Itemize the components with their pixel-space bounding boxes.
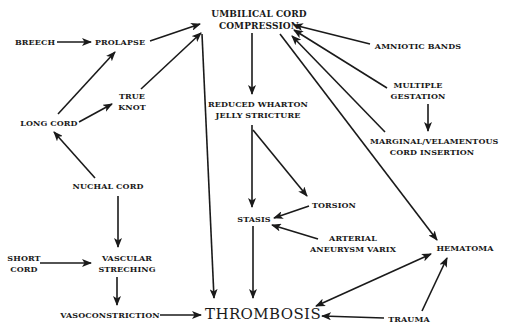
arrow-trauma-to-thrombosis [322, 316, 384, 318]
arrow-multiple-to-compression [294, 30, 387, 88]
node-hematoma-line: HEMATOMA [434, 243, 496, 254]
arrow-trauma-to-hematoma [422, 258, 447, 311]
node-longcord: LONG CORD [18, 118, 80, 129]
node-wharton-line: REDUCED WHARTON [208, 99, 308, 110]
node-marginal-line: CORD INSERTION [370, 147, 494, 158]
node-hematoma: HEMATOMA [434, 243, 496, 254]
node-vasocon-line: VASOCONSTRICTION [58, 310, 162, 321]
node-amniotic: AMNIOTIC BANDS [373, 41, 463, 52]
arrow-compression-to-thrombosis [202, 34, 214, 298]
node-multiple-line: GESTATION [386, 91, 450, 102]
node-vascular-line: VASCULAR [96, 253, 158, 264]
node-trueknot: TRUEKNOT [112, 91, 152, 113]
node-trueknot-line: TRUE [112, 91, 152, 102]
node-compression-line: COMPRESSION [209, 20, 309, 32]
node-nuchal: NUCHAL CORD [72, 181, 144, 192]
node-vascular: VASCULARSTRECHING [96, 253, 158, 275]
node-marginal-line: MARGINAL/VELAMENTOUS [370, 136, 494, 147]
arrow-nuchal-to-longcord [54, 132, 95, 178]
node-arterial-line: ANEURYSM VARIX [310, 244, 396, 255]
node-stasis: STASIS [236, 214, 272, 225]
node-amniotic-line: AMNIOTIC BANDS [373, 41, 463, 52]
node-longcord-line: LONG CORD [18, 118, 80, 129]
node-vasocon: VASOCONSTRICTION [58, 310, 162, 321]
arrow-longcord-to-trueknot [79, 104, 112, 122]
node-trauma: TRAUMA [386, 314, 432, 325]
node-trauma-line: TRAUMA [386, 314, 432, 325]
node-thrombosis-line: THROMBOSIS [205, 305, 317, 323]
node-torsion: TORSION [310, 200, 358, 211]
arrow-prolapse-to-compression [150, 24, 200, 41]
node-trueknot-line: KNOT [112, 102, 152, 113]
node-prolapse: PROLAPSE [94, 37, 146, 48]
node-arterial-line: ARTERIAL [310, 233, 396, 244]
node-compression-line: UMBILICAL CORD [209, 8, 309, 20]
node-shortcord: SHORTCORD [6, 253, 42, 275]
node-torsion-line: TORSION [310, 200, 358, 211]
node-shortcord-line: SHORT [6, 253, 42, 264]
arrow-trueknot-to-compression [141, 33, 201, 89]
node-wharton: REDUCED WHARTONJELLY STRICTURE [208, 99, 308, 121]
arrow-longcord-to-prolapse [58, 52, 115, 114]
node-prolapse-line: PROLAPSE [94, 37, 146, 48]
node-breech-line: BREECH [12, 37, 58, 48]
node-nuchal-line: NUCHAL CORD [72, 181, 144, 192]
node-breech: BREECH [12, 37, 58, 48]
node-thrombosis: THROMBOSIS [205, 305, 317, 323]
arrow-torsion-to-stasis [274, 206, 309, 218]
node-arterial: ARTERIALANEURYSM VARIX [310, 233, 396, 255]
arrow-wharton-to-torsion [253, 130, 307, 196]
arrow-thrombosis-to-hematoma [316, 254, 431, 306]
node-multiple: MULTIPLEGESTATION [386, 80, 450, 102]
node-marginal: MARGINAL/VELAMENTOUSCORD INSERTION [370, 136, 494, 158]
node-stasis-line: STASIS [236, 214, 272, 225]
node-wharton-line: JELLY STRICTURE [208, 110, 308, 121]
node-multiple-line: MULTIPLE [386, 80, 450, 91]
node-shortcord-line: CORD [6, 264, 42, 275]
node-vascular-line: STRECHING [96, 264, 158, 275]
node-compression: UMBILICAL CORDCOMPRESSION [209, 8, 309, 32]
